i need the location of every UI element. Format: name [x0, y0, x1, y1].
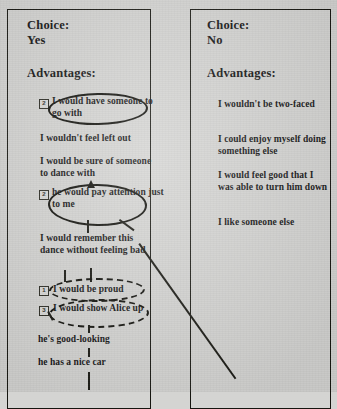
rank-number-box-2[interactable]: 2	[39, 190, 49, 200]
advantage-item-yes-9: he has a nice car	[38, 357, 150, 369]
advantage-item-no-3: I would feel good that I was able to tur…	[218, 170, 328, 193]
advantage-item-yes-3: I would be sure of someone to dance with	[40, 156, 152, 179]
connector-tick-3	[90, 268, 92, 282]
choice-label-yes: Choice:	[27, 18, 69, 33]
advantage-item-yes-5: I would remember this dance without feel…	[40, 233, 152, 256]
advantage-item-yes-6: I would be proud	[53, 284, 165, 296]
choice-value-no: No	[207, 33, 223, 48]
advantage-item-yes-8: he's good-looking	[38, 334, 150, 346]
advantage-item-no-2: I could enjoy myself doing something els…	[218, 134, 328, 157]
advantage-item-yes-4: he would pay attention just to me	[52, 187, 164, 210]
connector-tick-4	[88, 325, 90, 333]
choice-value-yes: Yes	[27, 33, 46, 48]
connector-tick-1	[87, 220, 89, 233]
choice-label-no: Choice:	[207, 18, 249, 33]
advantage-item-yes-2: I wouldn't feel left out	[40, 133, 152, 145]
rank-number-box-3[interactable]: 1	[39, 286, 49, 296]
connector-tick-2	[64, 270, 66, 282]
connector-tick-5	[88, 348, 90, 357]
advantages-label-yes: Advantages:	[27, 66, 96, 81]
advantage-item-yes-7: I would show Alice up	[53, 303, 153, 315]
rank-number-box-1[interactable]: 2	[39, 99, 49, 109]
advantage-item-yes-1: I would have someone to go with	[52, 96, 164, 119]
advantages-label-no: Advantages:	[207, 66, 276, 81]
advantage-item-no-4: I like someone else	[218, 217, 328, 229]
advantage-item-no-1: I wouldn't be two-faced	[218, 99, 328, 111]
connector-tick-6	[88, 372, 90, 390]
